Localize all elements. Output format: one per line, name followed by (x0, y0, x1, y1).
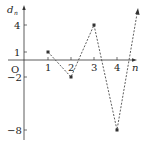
data-point-1 (47, 51, 50, 54)
sequence-chart: d n n O 4 1 −2 −8 1 2 3 4 (0, 0, 141, 153)
x-label-3: 3 (91, 62, 97, 73)
y-axis-label: d (7, 4, 13, 15)
y-label-m8: −8 (7, 125, 22, 136)
data-point-3 (93, 24, 96, 27)
y-label-4: 4 (14, 20, 20, 31)
data-point-2 (70, 76, 73, 79)
data-point-4 (116, 129, 119, 132)
y-label-m2: −2 (7, 72, 22, 83)
x-label-2: 2 (68, 62, 74, 73)
x-label-4: 4 (114, 62, 120, 73)
y-axis-arrow-icon (22, 5, 25, 10)
x-axis-label: n (132, 62, 138, 73)
y-label-1: 1 (14, 47, 20, 58)
y-axis-label-sub: n (14, 9, 18, 16)
series-arrow-icon (135, 8, 139, 15)
x-label-1: 1 (45, 62, 51, 73)
